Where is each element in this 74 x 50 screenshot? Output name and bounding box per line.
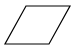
diagram-svg	[0, 0, 74, 50]
diagram-canvas	[0, 0, 74, 50]
parallelogram-shape	[5, 6, 70, 44]
